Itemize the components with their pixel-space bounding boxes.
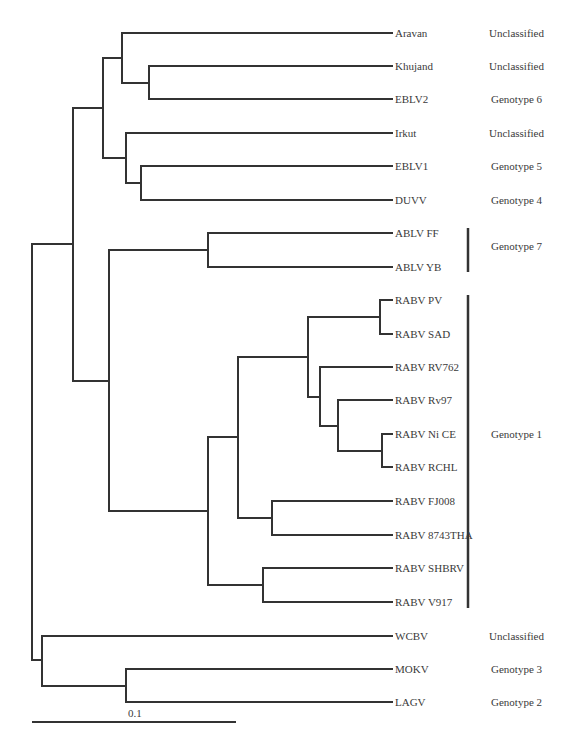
classification-label: Unclassified xyxy=(489,127,544,139)
taxon-label: ABLV YB xyxy=(395,261,441,273)
classification-label: Unclassified xyxy=(489,630,544,642)
classification-label: Genotype 1 xyxy=(491,428,542,440)
taxon-label: EBLV2 xyxy=(395,93,428,105)
taxon-label: RABV 8743THA xyxy=(395,529,473,541)
tree-branches xyxy=(32,33,392,702)
taxon-label: Aravan xyxy=(395,27,427,39)
taxon-label: RABV V917 xyxy=(395,596,452,608)
classification-label: Genotype 7 xyxy=(491,240,542,252)
phylogenetic-tree xyxy=(0,0,567,738)
taxon-label: RABV Ni CE xyxy=(395,428,456,440)
classification-label: Unclassified xyxy=(489,27,544,39)
classification-label: Genotype 5 xyxy=(491,160,542,172)
taxon-label: RABV RV762 xyxy=(395,361,459,373)
taxon-label: DUVV xyxy=(395,194,427,206)
taxon-label: ABLV FF xyxy=(395,227,439,239)
taxon-label: RABV RCHL xyxy=(395,461,457,473)
taxon-label: WCBV xyxy=(395,630,428,642)
classification-label: Genotype 3 xyxy=(491,663,542,675)
taxon-label: RABV Rv97 xyxy=(395,394,452,406)
taxon-label: RABV SHBRV xyxy=(395,562,464,574)
taxon-label: EBLV1 xyxy=(395,160,428,172)
taxon-label: Khujand xyxy=(395,60,433,72)
taxon-label: LAGV xyxy=(395,696,426,708)
scale-bar-label: 0.1 xyxy=(128,707,142,719)
taxon-label: RABV FJ008 xyxy=(395,495,455,507)
classification-label: Genotype 4 xyxy=(491,194,542,206)
taxon-label: RABV SAD xyxy=(395,328,450,340)
taxon-label: RABV PV xyxy=(395,294,442,306)
classification-label: Genotype 2 xyxy=(491,696,542,708)
classification-label: Genotype 6 xyxy=(491,93,542,105)
taxon-label: Irkut xyxy=(395,127,416,139)
classification-label: Unclassified xyxy=(489,60,544,72)
taxon-label: MOKV xyxy=(395,663,429,675)
